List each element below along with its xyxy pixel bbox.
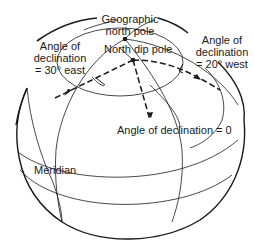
leader-arc-right [158, 18, 188, 33]
label-meridian: Meridian [34, 164, 76, 176]
leader-arc-left [37, 18, 97, 41]
geographic-north-pole-dot [123, 37, 128, 42]
meridian-far-left [27, 88, 62, 222]
label-declination-zero: Angle of declination = 0 [117, 124, 232, 136]
sphere-outline-right [218, 62, 244, 120]
label-declination-west: Angle of declination = 20° west [192, 34, 252, 70]
angle-mark-east-arc [92, 77, 104, 86]
left-outer-arc [16, 88, 27, 125]
label-declination-east: Angle of declination = 30° east [30, 40, 90, 76]
label-north-dip-pole: North dip pole [104, 43, 173, 55]
label-geographic-pole: Geographic north pole [100, 13, 160, 37]
north-dip-pole-dot [131, 58, 136, 63]
leader-decl-west [190, 68, 224, 148]
